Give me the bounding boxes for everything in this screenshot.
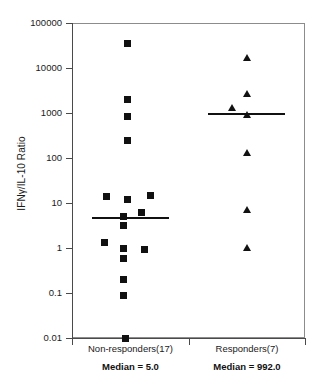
y-tick-label: 1 <box>6 243 62 253</box>
data-point-square <box>124 137 131 144</box>
y-tick-label: 100000 <box>6 18 62 28</box>
data-point-square <box>124 113 131 120</box>
median-text-non-responders: Median = 5.0 <box>72 361 189 373</box>
y-tick-label: 0.01 <box>6 333 62 343</box>
y-tick-label: 10000 <box>6 63 62 73</box>
data-point-square <box>124 40 131 47</box>
y-tick <box>66 203 73 204</box>
data-point-square <box>124 196 131 203</box>
data-point-square <box>120 245 127 252</box>
data-point-triangle <box>243 54 251 61</box>
data-point-triangle <box>243 149 251 156</box>
data-point-triangle <box>228 104 236 111</box>
data-point-square <box>122 335 129 342</box>
y-tick <box>66 68 73 69</box>
data-point-square <box>120 276 127 283</box>
data-point-square <box>141 246 148 253</box>
data-point-square <box>120 222 127 229</box>
group-label-responders: Responders(7) <box>189 343 305 355</box>
y-tick-label: 100 <box>6 153 62 163</box>
y-tick <box>66 113 73 114</box>
y-axis-title: IFNγ/IL-10 Ratio <box>16 99 27 249</box>
y-tick-label: 0.1 <box>6 288 62 298</box>
y-tick-label: 10 <box>6 198 62 208</box>
y-tick <box>66 23 73 24</box>
median-text-responders: Median = 992.0 <box>189 361 305 373</box>
data-point-square <box>147 192 154 199</box>
y-tick <box>66 248 73 249</box>
data-point-square <box>138 209 145 216</box>
median-line <box>92 217 169 219</box>
data-point-triangle <box>243 206 251 213</box>
y-tick <box>66 293 73 294</box>
x-tick <box>305 338 306 345</box>
data-point-triangle <box>243 244 251 251</box>
plot-frame <box>72 23 305 338</box>
data-point-square <box>120 292 127 299</box>
data-point-square <box>120 255 127 262</box>
median-line <box>208 113 285 115</box>
data-point-square <box>103 193 110 200</box>
data-point-triangle <box>243 90 251 97</box>
group-label-non-responders: Non-responders(17) <box>72 343 189 355</box>
scatter-plot-figure: IFNγ/IL-10 Ratio 1000001000010001001010.… <box>0 0 323 378</box>
data-point-square <box>124 96 131 103</box>
y-tick <box>66 158 73 159</box>
y-axis-line <box>72 23 73 339</box>
y-tick-label: 1000 <box>6 108 62 118</box>
data-point-square <box>101 239 108 246</box>
